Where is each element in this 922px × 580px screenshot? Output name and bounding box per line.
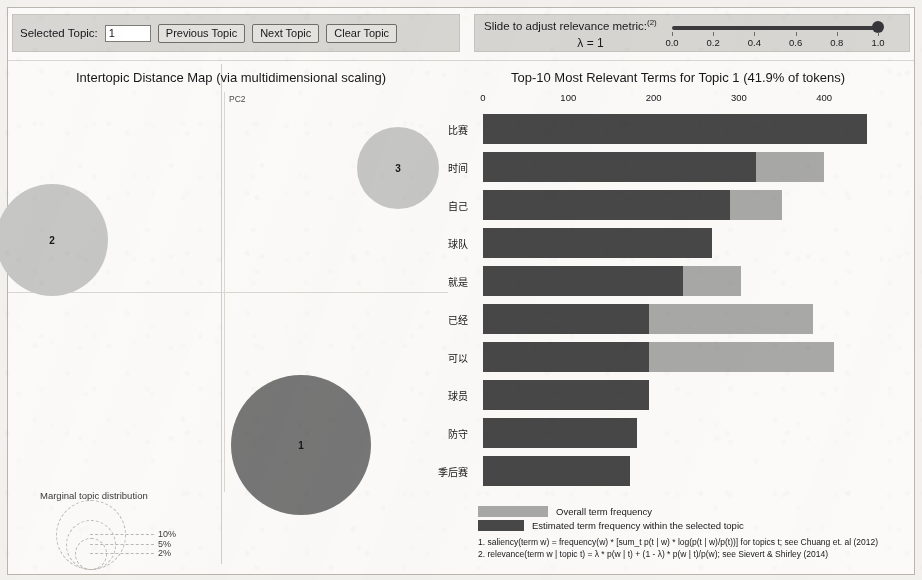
bar-estimated-frequency: [483, 456, 630, 486]
marginal-topic-distribution-legend: Marginal topic distribution 2%5%10%: [32, 490, 212, 574]
bar-term-label: 可以: [448, 350, 468, 365]
bar-estimated-frequency: [483, 228, 712, 258]
bar-row[interactable]: 比赛: [470, 110, 914, 148]
bar-row[interactable]: 时间: [470, 148, 914, 186]
slider-tick-label-0.2: 0.2: [707, 37, 720, 48]
selected-topic-label: Selected Topic:: [20, 27, 98, 39]
bar-term-label: 比赛: [448, 122, 468, 137]
top-terms-bar-chart: 0100200300400 比赛时间自己球队就是已经可以球员防守季后赛: [470, 92, 914, 504]
footnote-saliency: 1. saliency(term w) = frequency(w) * [su…: [478, 536, 914, 548]
slider-tick-0.4: [754, 32, 755, 36]
bar-estimated-frequency: [483, 342, 649, 372]
legend-row-estimated: Estimated term frequency within the sele…: [478, 520, 914, 531]
marginal-legend-leader-10%: [90, 534, 154, 535]
estimated-frequency-label: Estimated term frequency within the sele…: [532, 520, 744, 531]
topic-circle-3[interactable]: 3: [357, 127, 439, 209]
bar-row[interactable]: 就是: [470, 262, 914, 300]
slider-tick-label-0.8: 0.8: [830, 37, 843, 48]
slider-tick-label-1.0: 1.0: [871, 37, 884, 48]
x-tick-300: 300: [731, 92, 747, 103]
bar-term-label: 已经: [448, 312, 468, 327]
footnotes: 1. saliency(term w) = frequency(w) * [su…: [478, 536, 914, 561]
bar-term-label: 时间: [448, 160, 468, 175]
slider-tick-0.0: [672, 32, 673, 36]
slider-tick-label-0.4: 0.4: [748, 37, 761, 48]
bar-estimated-frequency: [483, 418, 637, 448]
x-tick-400: 400: [816, 92, 832, 103]
pc2-axis-label: PC2: [229, 94, 246, 104]
relevance-metric-label: Slide to adjust relevance metric:(2): [484, 18, 679, 32]
next-topic-button[interactable]: Next Topic: [252, 24, 319, 43]
relevance-metric-text: Slide to adjust relevance metric:: [484, 20, 647, 32]
bar-estimated-frequency: [483, 380, 649, 410]
topic-circle-1[interactable]: 1: [231, 375, 371, 515]
bar-row[interactable]: 球员: [470, 376, 914, 414]
relevance-slider-track[interactable]: [672, 26, 878, 30]
x-tick-100: 100: [560, 92, 576, 103]
topic-circle-2[interactable]: 2: [0, 184, 108, 296]
bar-term-label: 就是: [448, 274, 468, 289]
slider-tick-label-0.6: 0.6: [789, 37, 802, 48]
clear-topic-button[interactable]: Clear Topic: [326, 24, 397, 43]
marginal-legend-pct-5%: 5%: [158, 539, 171, 549]
pyldavis-app: Selected Topic: Previous Topic Next Topi…: [8, 8, 914, 574]
pc1-axis-line: [8, 292, 448, 293]
bar-chart-x-axis: 0100200300400: [470, 92, 914, 108]
x-tick-200: 200: [646, 92, 662, 103]
slider-tick-0.8: [837, 32, 838, 36]
bar-estimated-frequency: [483, 266, 683, 296]
relevance-slider[interactable]: 0.00.20.40.60.81.0: [670, 23, 888, 51]
legend-row-overall: Overall term frequency: [478, 506, 914, 517]
bar-estimated-frequency: [483, 190, 730, 220]
footnote-relevance: 2. relevance(term w | topic t) = λ * p(w…: [478, 548, 914, 560]
slider-tick-label-0.0: 0.0: [665, 37, 678, 48]
overall-frequency-swatch: [478, 506, 548, 517]
bar-row[interactable]: 自己: [470, 186, 914, 224]
selected-topic-input[interactable]: [105, 25, 151, 42]
intertopic-map-title: Intertopic Distance Map (via multidimens…: [76, 70, 386, 85]
slider-tick-1.0: [878, 32, 879, 36]
bar-term-label: 球队: [448, 236, 468, 251]
bar-row[interactable]: 可以: [470, 338, 914, 376]
bar-estimated-frequency: [483, 152, 756, 182]
bar-term-label: 自己: [448, 198, 468, 213]
lambda-value-label: λ = 1: [484, 36, 679, 50]
relevance-footnote-marker: (2): [647, 18, 657, 27]
x-tick-0: 0: [480, 92, 485, 103]
estimated-frequency-swatch: [478, 520, 524, 531]
bar-term-label: 球员: [448, 388, 468, 403]
slider-tick-0.6: [796, 32, 797, 36]
bar-estimated-frequency: [483, 114, 867, 144]
header-divider: [8, 60, 914, 61]
slider-tick-0.2: [713, 32, 714, 36]
topic-control-bar: Selected Topic: Previous Topic Next Topi…: [12, 14, 460, 52]
bar-estimated-frequency: [483, 304, 649, 334]
bar-term-label: 季后赛: [438, 464, 468, 479]
bar-row[interactable]: 已经: [470, 300, 914, 338]
bar-term-label: 防守: [448, 426, 468, 441]
marginal-legend-circle-10%: [56, 500, 126, 570]
bar-row[interactable]: 球队: [470, 224, 914, 262]
marginal-legend-pct-10%: 10%: [158, 529, 176, 539]
marginal-legend-pct-2%: 2%: [158, 548, 171, 558]
intertopic-distance-map: PC2 PC1 123: [8, 92, 448, 492]
overall-frequency-label: Overall term frequency: [556, 506, 652, 517]
relevance-control-bar: Slide to adjust relevance metric:(2) λ =…: [474, 14, 910, 52]
bar-row[interactable]: 季后赛: [470, 452, 914, 490]
top-terms-title: Top-10 Most Relevant Terms for Topic 1 (…: [511, 70, 845, 85]
bar-row[interactable]: 防守: [470, 414, 914, 452]
bar-chart-legend: Overall term frequency Estimated term fr…: [478, 506, 914, 561]
relevance-labels: Slide to adjust relevance metric:(2) λ =…: [484, 18, 679, 50]
previous-topic-button[interactable]: Previous Topic: [158, 24, 245, 43]
